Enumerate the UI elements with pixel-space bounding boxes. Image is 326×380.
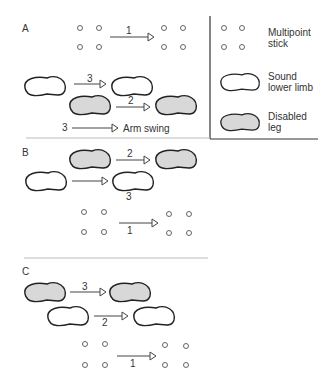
step-number: 1 [126, 25, 132, 36]
step-number: 1 [130, 358, 136, 369]
multipoint-stick-icon [83, 342, 108, 368]
multipoint-stick-icon [167, 212, 192, 236]
disabled-foot-icon [110, 283, 150, 302]
arrow-icon [119, 219, 158, 227]
legend-multipoint-stick: Multipoint stick [222, 26, 312, 50]
sound-foot-icon [221, 74, 259, 91]
legend-label: stick [268, 38, 289, 49]
legend-sound-lower-limb: Sound lower limb [221, 71, 314, 93]
legend: Multipoint stick Sound lower limb Disabl… [210, 16, 318, 139]
legend-disabled-leg: Disabled leg [221, 111, 307, 133]
disabled-foot-icon [221, 114, 259, 131]
arrow-icon [116, 156, 150, 164]
sound-foot-icon [112, 77, 152, 96]
disabled-foot-icon [156, 150, 196, 169]
sound-foot-icon [134, 307, 174, 326]
panel-a: A 1 3 2 3 Arm swing [22, 23, 196, 134]
panel-label: A [22, 23, 29, 34]
disabled-foot-icon [25, 283, 65, 302]
step-number: 2 [102, 317, 108, 328]
step-number: 3 [82, 281, 88, 292]
disabled-foot-icon [70, 96, 110, 115]
arrow-icon [110, 33, 154, 41]
arrow-icon [70, 288, 106, 296]
multipoint-stick-icon [82, 210, 107, 235]
disabled-foot-icon [70, 150, 110, 169]
step-number: 2 [127, 148, 133, 159]
multipoint-stick-icon [162, 26, 186, 50]
step-number: 2 [128, 95, 134, 106]
step-number: 3 [87, 73, 93, 84]
multipoint-stick-icon [163, 343, 189, 368]
step-number: 3 [126, 191, 132, 202]
legend-label: leg [268, 122, 281, 133]
sound-foot-icon [26, 172, 66, 191]
sound-foot-icon [48, 307, 88, 326]
step-number: 1 [127, 225, 133, 236]
arm-swing-label: Arm swing [123, 123, 170, 134]
arrow-icon [72, 124, 118, 132]
multipoint-stick-icon [78, 26, 102, 50]
arrow-icon [94, 312, 128, 320]
arrow-icon [117, 352, 156, 360]
sound-foot-icon [113, 172, 153, 191]
sound-foot-icon [25, 77, 65, 96]
arrow-icon [72, 177, 108, 185]
panel-label: C [22, 266, 29, 277]
legend-label: Disabled [268, 111, 307, 122]
disabled-foot-icon [156, 96, 196, 115]
panel-label: B [22, 147, 29, 158]
legend-label: Sound [268, 71, 297, 82]
panel-c: C 3 2 1 [22, 266, 189, 369]
multipoint-stick-icon [222, 26, 245, 50]
panel-b: B 2 3 1 [22, 147, 196, 236]
legend-label: lower limb [268, 82, 313, 93]
step-number: 3 [62, 122, 68, 133]
gait-diagram: Multipoint stick Sound lower limb Disabl… [0, 0, 326, 380]
legend-label: Multipoint [268, 27, 311, 38]
